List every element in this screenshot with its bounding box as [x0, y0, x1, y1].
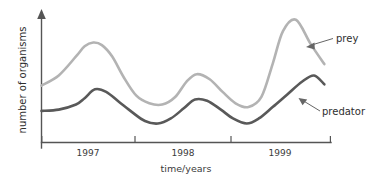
predator-prey-chart: 1997 1998 1999 time/years number of orga… [0, 0, 375, 183]
x-tick-label-1997: 1997 [77, 148, 100, 158]
prey-annotation: prey [306, 33, 358, 50]
chart-canvas: 1997 1998 1999 time/years number of orga… [0, 0, 375, 183]
x-axis [42, 136, 332, 143]
series-label-predator: predator [322, 106, 366, 117]
x-tick-label-1998: 1998 [172, 148, 195, 158]
series-line-predator [42, 75, 325, 123]
x-axis-title: time/years [161, 163, 212, 174]
y-axis [37, 9, 46, 148]
x-tick-label-1999: 1999 [269, 148, 292, 158]
series-line-prey [42, 19, 325, 107]
predator-leader-arrow-icon [299, 98, 308, 105]
y-axis-title: number of organisms [17, 27, 28, 134]
predator-annotation: predator [299, 98, 366, 117]
y-axis-arrow-icon [37, 9, 46, 19]
series-label-prey: prey [336, 33, 358, 44]
